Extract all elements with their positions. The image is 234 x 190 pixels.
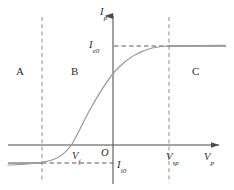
floating-potential-label-sub: f: [79, 158, 81, 166]
x-axis-label-sub: p: [211, 159, 215, 167]
space-potential-label: Vsp: [166, 152, 179, 163]
ion-saturation-label-main: I: [117, 159, 121, 170]
electron-saturation-label-main: I: [89, 39, 93, 50]
space-potential-label-main: V: [166, 151, 172, 162]
region-label-b: B: [71, 66, 79, 77]
x-axis-label-main: V: [204, 151, 210, 162]
floating-potential-label-main: V: [72, 150, 78, 161]
space-potential-label-sub: sp: [173, 159, 179, 167]
ion-saturation-label: Ii0: [117, 160, 126, 171]
langmuir-probe-iv-figure: A B C Ip Vp O Ie0 Ii0 Vf Vsp: [0, 0, 234, 190]
y-axis-label-sub: p: [104, 14, 108, 22]
electron-saturation-label-sub: e0: [93, 47, 100, 55]
probe-characteristic-curve: [8, 45, 225, 165]
y-axis-label-main: I: [100, 6, 104, 17]
region-label-c: C: [192, 66, 200, 77]
x-axis-label: Vp: [204, 152, 214, 163]
electron-saturation-label: Ie0: [89, 40, 99, 51]
ion-saturation-label-sub: i0: [121, 167, 126, 175]
region-label-a: A: [16, 66, 24, 77]
floating-potential-label: Vf: [72, 151, 80, 162]
y-axis-label: Ip: [100, 7, 107, 18]
origin-label: O: [101, 148, 109, 159]
